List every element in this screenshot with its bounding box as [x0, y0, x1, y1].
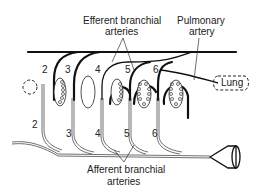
arch-number-bottom-5: 5 — [124, 128, 130, 139]
arch-number-bottom-4: 4 — [95, 128, 101, 139]
arch-number-bottom-2: 2 — [32, 119, 38, 130]
arch-number-bottom-3: 3 — [66, 128, 72, 139]
afferent-label-line1: Afferent branchial — [87, 164, 165, 175]
efferent-pointer — [112, 38, 134, 70]
lung-label: Lung — [221, 77, 243, 88]
arch-number-top-6: 6 — [153, 64, 159, 75]
heart-bulbus-icon — [210, 146, 240, 168]
arch-number-top-3: 3 — [65, 64, 71, 75]
efferent-label-line1: Efferent branchial — [83, 15, 161, 26]
arch-number-top-5: 5 — [125, 64, 131, 75]
arch-number-bottom-6: 6 — [152, 128, 158, 139]
pulmonary-branch — [160, 70, 218, 83]
ventral-aorta — [12, 142, 210, 158]
afferent-pointer — [114, 145, 134, 162]
dashed-circle-left — [23, 80, 37, 94]
pulmonary-pointer — [194, 38, 199, 80]
arch-number-top-2: 2 — [42, 64, 48, 75]
afferent-label-line2: arteries — [107, 176, 140, 187]
pulmonary-label-line2: artery — [189, 26, 215, 37]
efferent-arches — [54, 52, 218, 118]
efferent-label-line2: arteries — [105, 26, 138, 37]
arch-number-top-4: 4 — [95, 64, 101, 75]
pulmonary-label-line1: Pulmonary — [177, 15, 225, 26]
branchial-arteries-diagram: Lung Efferent branchial arteries Pulmona… — [0, 0, 258, 193]
